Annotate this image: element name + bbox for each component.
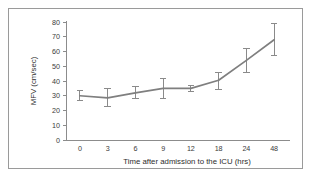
y-tick-label: 20 bbox=[52, 106, 60, 115]
y-axis-title: MFV (cm/sec) bbox=[29, 56, 38, 105]
y-tick-label: 30 bbox=[52, 91, 60, 100]
y-tick-label: 60 bbox=[52, 47, 60, 56]
x-axis-title: Time after admission to the ICU (hrs) bbox=[123, 157, 251, 166]
x-tick-label: 0 bbox=[78, 144, 82, 153]
x-tick-label: 9 bbox=[161, 144, 165, 153]
x-axis-title-text: Time after admission to the ICU (hrs) bbox=[123, 157, 251, 166]
error-bars bbox=[77, 23, 278, 106]
x-tick-label: 12 bbox=[187, 144, 195, 153]
x-tick-label: 24 bbox=[242, 144, 250, 153]
y-tick-label: 70 bbox=[52, 32, 60, 41]
chart-canvas: 01020304050607080 036912182448 MFV (cm/s… bbox=[0, 0, 313, 179]
y-tick-label: 40 bbox=[52, 77, 60, 86]
figure-root: 01020304050607080 036912182448 MFV (cm/s… bbox=[0, 0, 313, 179]
y-tick-label: 80 bbox=[52, 18, 60, 27]
x-tick-label: 48 bbox=[270, 144, 278, 153]
y-tick-label: 0 bbox=[56, 136, 60, 145]
x-tick-label: 6 bbox=[133, 144, 137, 153]
y-tick-label: 10 bbox=[52, 121, 60, 130]
x-tick-label: 3 bbox=[106, 144, 110, 153]
x-tick-label: 18 bbox=[215, 144, 223, 153]
x-axis: 036912182448 bbox=[66, 140, 290, 153]
y-axis-title-text: MFV (cm/sec) bbox=[29, 56, 38, 105]
y-tick-label: 50 bbox=[52, 62, 60, 71]
y-axis: 01020304050607080 bbox=[52, 18, 66, 145]
